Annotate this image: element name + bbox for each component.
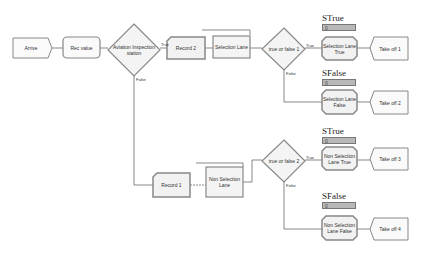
variable-value-sfalse-1: 0 [322,79,356,86]
variable-label-strue-2: STrue [322,126,344,136]
node-true-or-false-2[interactable]: true or false 2 [266,154,302,168]
variable-value-strue-1: 0 [322,24,356,31]
node-non-selection-lane[interactable]: Non Selection Lane [206,167,243,197]
branch-false-label: False [286,183,296,188]
node-take-off-2[interactable]: Take off 2 [372,91,408,114]
variable-label-strue-1: STrue [322,13,344,23]
branch-false-label: False [286,71,296,76]
node-take-off-1[interactable]: Take off 1 [372,37,408,60]
node-non-selection-lane-true[interactable]: Non Selection Lane True [322,147,357,170]
node-arrive[interactable]: Arrive [13,38,49,58]
variable-label-sfalse-1: SFalse [322,68,346,78]
variable-label-sfalse-2: SFalse [322,191,346,201]
node-record-1[interactable]: Record 1 [153,173,190,197]
node-selection-lane-false[interactable]: Selection Lane False [322,90,357,114]
node-true-or-false-1[interactable]: true or false 1 [266,42,302,56]
variable-value-sfalse-2: 0 [322,202,356,209]
node-rec-value[interactable]: Rec value [63,37,100,58]
node-take-off-3[interactable]: Take off 3 [372,148,408,170]
branch-true-label: True [306,155,314,160]
node-inspection-decision[interactable]: Aviation Inspection station [112,40,156,60]
node-selection-lane-true[interactable]: Selection Lane True [322,37,357,60]
variable-value-strue-2: 0 [322,137,356,144]
node-take-off-4[interactable]: Take off 4 [372,218,408,240]
branch-true-label: True [306,43,314,48]
node-selection-lane[interactable]: Selection Lane [213,36,250,58]
branch-false-label: False [136,77,146,82]
branch-true-label: True [161,42,169,47]
node-record-2[interactable]: Record 2 [167,37,205,59]
node-non-selection-lane-false[interactable]: Non Selection Lane False [322,216,357,240]
